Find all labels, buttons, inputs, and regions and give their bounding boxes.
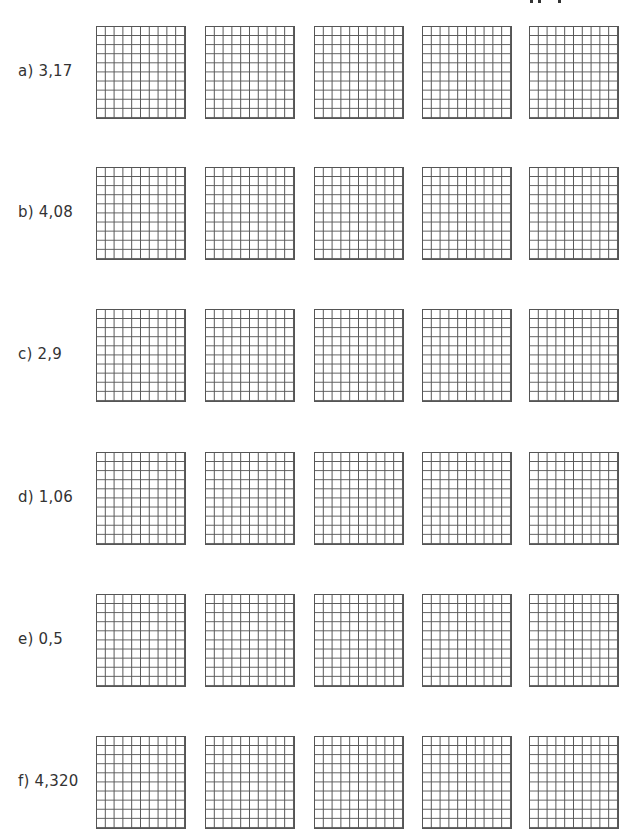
- hundred-grid-2[interactable]: [205, 452, 295, 545]
- exercise-label: e) 0,5: [18, 630, 63, 648]
- hundred-grid-2[interactable]: [205, 594, 295, 687]
- exercise-label: b) 4,08: [18, 203, 73, 221]
- exercise-label: f) 4,320: [18, 772, 78, 790]
- hundred-grid-3[interactable]: [314, 594, 404, 687]
- hundred-grid-5[interactable]: [529, 594, 619, 687]
- hundred-grid-1[interactable]: [96, 736, 186, 829]
- hundred-grid-1[interactable]: [96, 452, 186, 545]
- exercise-label: c) 2,9: [18, 345, 62, 363]
- exercise-row-f: f) 4,320: [0, 736, 636, 832]
- exercise-row-c: c) 2,9: [0, 309, 636, 405]
- exercise-label: d) 1,06: [18, 488, 73, 506]
- hundred-grid-4[interactable]: [422, 309, 512, 402]
- hundred-grid-2[interactable]: [205, 736, 295, 829]
- hundred-grid-3[interactable]: [314, 26, 404, 119]
- hundred-grid-1[interactable]: [96, 594, 186, 687]
- hundred-grid-4[interactable]: [422, 452, 512, 545]
- hundred-grid-3[interactable]: [314, 452, 404, 545]
- hundred-grid-5[interactable]: [529, 26, 619, 119]
- hundred-grid-5[interactable]: [529, 309, 619, 402]
- exercise-row-d: d) 1,06: [0, 452, 636, 548]
- hundred-grid-4[interactable]: [422, 26, 512, 119]
- exercise-row-e: e) 0,5: [0, 594, 636, 690]
- hundred-grid-1[interactable]: [96, 309, 186, 402]
- hundred-grid-5[interactable]: [529, 167, 619, 260]
- hundred-grid-4[interactable]: [422, 594, 512, 687]
- hundred-grid-2[interactable]: [205, 167, 295, 260]
- hundred-grid-4[interactable]: [422, 736, 512, 829]
- hundred-grid-5[interactable]: [529, 452, 619, 545]
- exercise-label: a) 3,17: [18, 62, 73, 80]
- cropped-text-fragment: [528, 0, 568, 4]
- hundred-grid-2[interactable]: [205, 26, 295, 119]
- hundred-grid-4[interactable]: [422, 167, 512, 260]
- exercise-row-a: a) 3,17: [0, 26, 636, 122]
- hundred-grid-3[interactable]: [314, 309, 404, 402]
- hundred-grid-5[interactable]: [529, 736, 619, 829]
- hundred-grid-1[interactable]: [96, 167, 186, 260]
- hundred-grid-2[interactable]: [205, 309, 295, 402]
- hundred-grid-1[interactable]: [96, 26, 186, 119]
- hundred-grid-3[interactable]: [314, 736, 404, 829]
- hundred-grid-3[interactable]: [314, 167, 404, 260]
- exercise-row-b: b) 4,08: [0, 167, 636, 263]
